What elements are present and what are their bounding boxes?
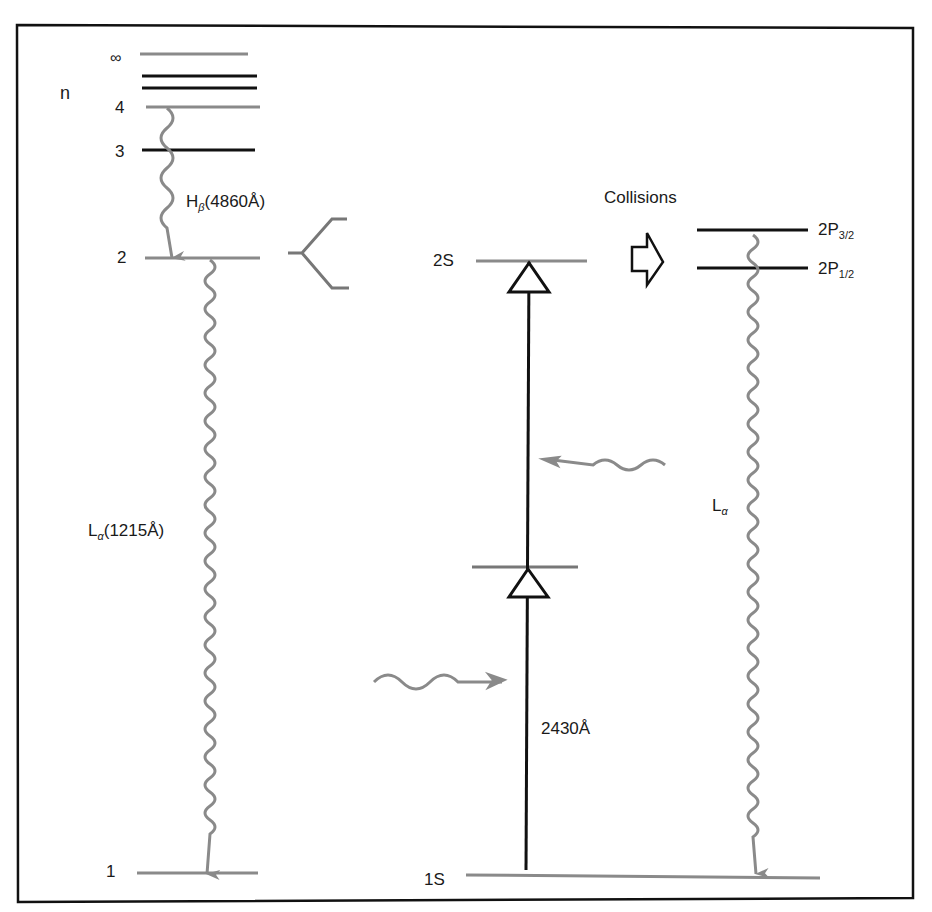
incoming-photon-lower — [374, 675, 502, 689]
fine-structure-splitting-bracket — [288, 219, 349, 288]
level-label-2p32: 2P3/2 — [818, 221, 854, 241]
incoming-photon-upper — [553, 460, 665, 470]
l-alpha-decay-arrow — [748, 235, 758, 874]
level-label-infinity: ∞ — [110, 50, 121, 66]
level-label-2: 2 — [117, 249, 126, 266]
excitation-arrowhead-upper — [509, 263, 549, 292]
left-levels — [137, 54, 260, 873]
level-label-4: 4 — [115, 99, 124, 116]
h-beta-transition-arrow — [161, 108, 173, 258]
l-alpha-label-left: Lα(1215Å) — [88, 522, 164, 542]
collisions-label: Collisions — [604, 189, 677, 206]
excitation-wavelength-label: 2430Å — [541, 720, 590, 737]
h-beta-label: Hβ(4860Å) — [186, 193, 265, 213]
level-label-1: 1 — [106, 863, 115, 880]
level-label-3: 3 — [115, 143, 124, 160]
l-alpha-label-right: Lα — [712, 497, 728, 517]
excitation-arrowhead-lower — [509, 569, 548, 597]
energy-level-diagram — [0, 0, 932, 912]
frame-border — [17, 25, 913, 902]
level-label-2s: 2S — [433, 252, 454, 269]
level-label-2p12: 2P1/2 — [818, 260, 854, 280]
level-label-1s: 1S — [424, 871, 445, 888]
collisions-arrow-icon — [632, 233, 663, 285]
right-levels — [466, 230, 820, 878]
l-alpha-transition-arrow — [205, 260, 215, 874]
n-axis-label: n — [60, 84, 70, 102]
two-photon-excitation-line — [526, 262, 529, 870]
